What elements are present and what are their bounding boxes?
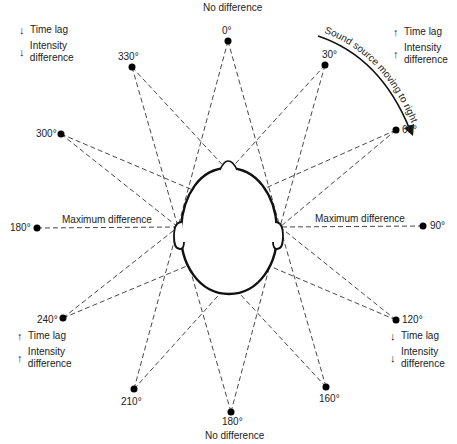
- arrow-up-icon: ↑: [17, 352, 25, 364]
- left-maximum-difference-label: Maximum difference: [62, 214, 152, 226]
- angle-label-120: 120°: [402, 314, 423, 326]
- legend-top-right: ↑Time lag ↑Intensity difference: [393, 26, 455, 70]
- top-no-difference-label: No difference: [203, 2, 262, 14]
- angle-label-160: 160°: [319, 393, 340, 405]
- arrow-up-icon: ↑: [17, 330, 25, 342]
- arrow-down-icon: ↓: [19, 46, 27, 58]
- angle-label-60: 60°: [402, 124, 417, 136]
- angle-label-180-bottom: 180°: [222, 416, 243, 428]
- legend-bottom-right: ↓Time lag ↓Intensity difference: [390, 330, 452, 374]
- head-icon: [181, 161, 277, 294]
- angle-label-210: 210°: [121, 396, 142, 408]
- angle-label-300: 300°: [36, 128, 57, 140]
- arrow-down-icon: ↓: [19, 24, 27, 36]
- angle-label-330: 330°: [118, 51, 139, 63]
- angle-label-240: 240°: [37, 314, 58, 326]
- angle-label-90: 90°: [430, 220, 445, 232]
- arrow-up-icon: ↑: [393, 48, 401, 60]
- angle-label-30: 30°: [322, 49, 337, 61]
- legend-bottom-left: ↑Time lag ↑Intensity difference: [17, 330, 77, 374]
- arrow-up-icon: ↑: [393, 26, 401, 38]
- arrow-down-icon: ↓: [390, 352, 398, 364]
- angle-label-0: 0°: [222, 25, 232, 37]
- legend-top-left: ↓Time lag ↓Intensity difference: [19, 24, 79, 68]
- angle-label-180-left: 180°: [10, 222, 31, 234]
- bottom-no-difference-label: No difference: [205, 430, 264, 442]
- arrow-down-icon: ↓: [390, 330, 398, 342]
- right-maximum-difference-label: Maximum difference: [315, 213, 405, 225]
